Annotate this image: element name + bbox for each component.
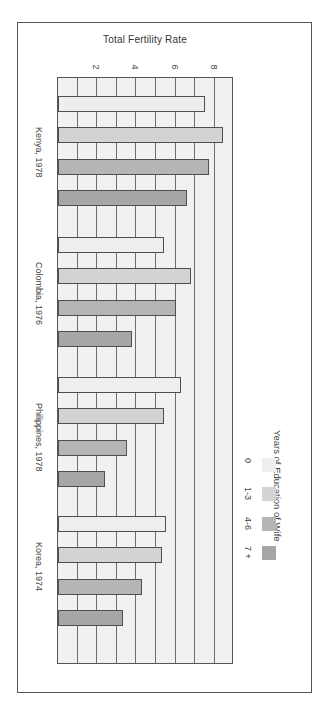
bar: [58, 610, 123, 626]
bar: [58, 268, 191, 284]
axis-tick-label: 8: [209, 62, 219, 72]
legend-label: 4-6: [243, 517, 253, 530]
bar: [58, 237, 164, 253]
bar: [58, 190, 187, 206]
bar: [58, 408, 164, 424]
axis-title: Total Fertility Rate: [57, 34, 233, 45]
bar: [58, 96, 205, 112]
axis-tick-label: 6: [170, 62, 180, 72]
bar: [58, 547, 162, 563]
group-label: Korea, 1974: [34, 542, 44, 591]
group-label: Colombia, 1976: [34, 262, 44, 325]
bar: [58, 471, 105, 487]
group-label: Kenya, 1978: [34, 127, 44, 178]
bar: [58, 331, 132, 347]
legend-swatch: [262, 546, 276, 560]
bar: [58, 127, 223, 143]
legend-label: 7 +: [243, 546, 253, 559]
bar: [58, 159, 209, 175]
legend-swatch: [262, 517, 276, 531]
bar: [58, 516, 166, 532]
bar: [58, 300, 176, 316]
bar: [58, 579, 142, 595]
group-label: Philippines, 1978: [34, 403, 44, 472]
legend-label: 1-3: [243, 487, 253, 500]
legend-item: 7 +: [258, 546, 278, 586]
axis-tick-label: 4: [130, 62, 140, 72]
legend-label: 0: [243, 458, 253, 463]
bar: [58, 377, 181, 393]
bar: [58, 440, 127, 456]
plot-area: [57, 77, 233, 664]
axis-tick-label: 2: [91, 62, 101, 72]
legend-swatch: [262, 487, 276, 501]
legend-swatch: [262, 458, 276, 472]
gridline: [214, 78, 215, 663]
